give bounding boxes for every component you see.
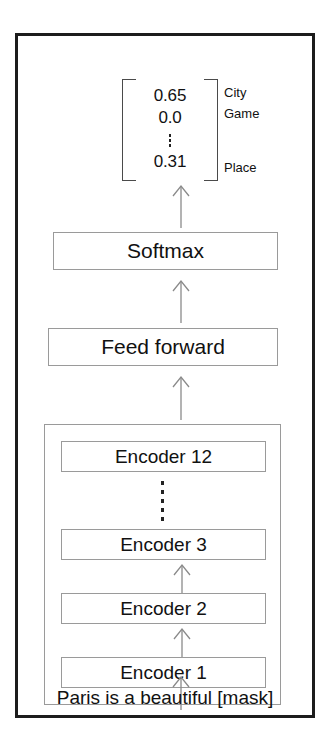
diagram-frame: 0.65 0.0 0.31 City Game Place Softmax Fe…: [15, 33, 315, 718]
arrow-encoder2-to-encoder3: [171, 562, 193, 593]
vector-label-game: Game: [224, 106, 259, 121]
encoder-12-node: Encoder 12: [61, 441, 266, 472]
encoder-stack-container: Encoder 12 Encoder 3 Encoder 2 Encoder 1: [44, 424, 281, 705]
softmax-node: Softmax: [53, 232, 278, 270]
feed-forward-node: Feed forward: [48, 328, 278, 366]
encoder-3-node: Encoder 3: [61, 529, 266, 560]
arrow-softmax-to-output: [170, 183, 192, 228]
arrow-encoderstack-to-feedforward: [170, 374, 192, 420]
vector-value-0: 0.65: [154, 85, 186, 107]
vector-values: 0.65 0.0 0.31: [136, 79, 204, 181]
vector-value-1: 0.0: [158, 107, 181, 129]
matrix-bracket-left-icon: [122, 79, 136, 181]
vector-label-place: Place: [224, 160, 257, 175]
vector-label-city: City: [224, 85, 246, 100]
vector-vertical-ellipsis-icon: [169, 129, 172, 151]
arrow-encoder1-to-encoder2: [171, 626, 193, 657]
vector-value-2: 0.31: [154, 151, 186, 173]
encoder-1-node: Encoder 1: [61, 657, 266, 688]
vector-class-labels: City Game Place: [224, 79, 304, 181]
output-probability-vector: 0.65 0.0 0.31: [122, 79, 218, 181]
matrix-bracket-right-icon: [204, 79, 218, 181]
input-sentence-text: Paris is a beautiful [mask]: [18, 687, 312, 709]
arrow-feedforward-to-softmax: [170, 278, 192, 323]
encoder-vertical-ellipsis-icon: [45, 477, 280, 525]
encoder-2-node: Encoder 2: [61, 593, 266, 624]
